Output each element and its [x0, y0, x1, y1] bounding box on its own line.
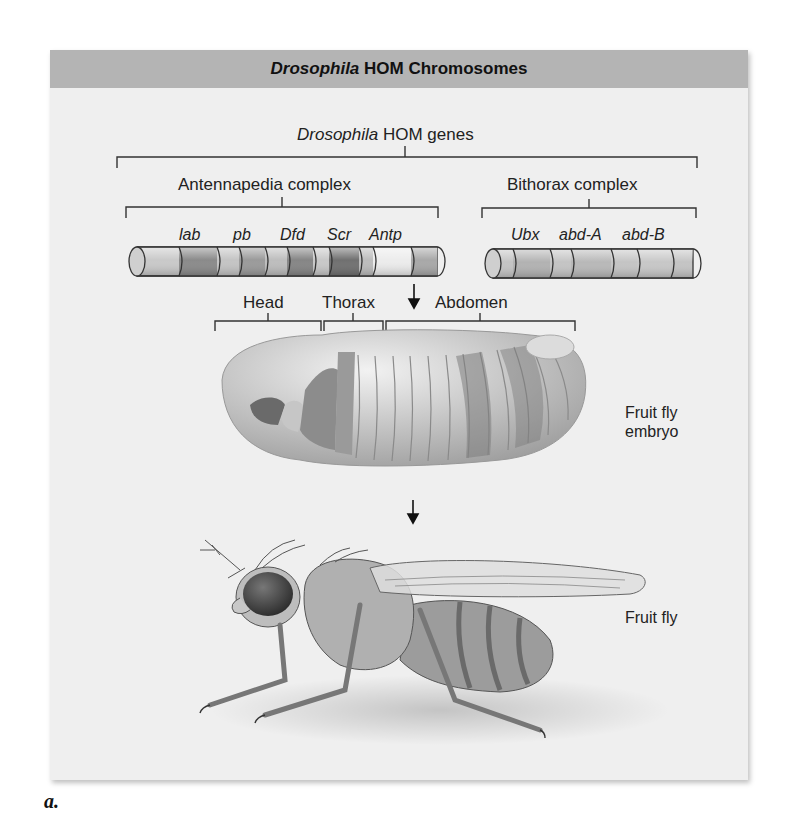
fruit-fly-illustration [200, 540, 670, 745]
gene-abd-b: abd-B [622, 226, 665, 244]
arrow-down-icon-2 [408, 500, 418, 523]
adult-fly-label: Fruit fly [625, 609, 677, 627]
embryo-label-line2: embryo [625, 423, 678, 441]
region-abdomen: Abdomen [435, 293, 508, 313]
bithorax-bracket [482, 199, 696, 218]
gene-antp: Antp [369, 226, 402, 244]
embryo-illustration [222, 330, 586, 466]
bithorax-complex-label: Bithorax complex [507, 175, 637, 195]
antennapedia-bracket [126, 197, 438, 218]
hom-genes-label: Drosophila HOM genes [297, 125, 474, 145]
hom-genes-bracket [117, 146, 697, 168]
antennapedia-complex-label: Antennapedia complex [178, 175, 351, 195]
hom-genes-italic: Drosophila [297, 125, 378, 144]
gene-ubx: Ubx [511, 226, 539, 244]
gene-abd-a: abd-A [559, 226, 602, 244]
hom-genes-rest: HOM genes [378, 125, 473, 144]
body-region-brackets [215, 313, 575, 331]
gene-dfd: Dfd [280, 226, 305, 244]
antennapedia-chromosome [129, 247, 445, 276]
embryo-label-line1: Fruit fly [625, 404, 677, 422]
region-thorax: Thorax [322, 293, 375, 313]
arrow-down-icon [409, 284, 419, 308]
figure-label: a. [44, 790, 59, 813]
gene-scr: Scr [327, 226, 351, 244]
bithorax-chromosome [485, 249, 701, 278]
gene-lab: lab [179, 226, 200, 244]
region-head: Head [243, 293, 284, 313]
gene-pb: pb [233, 226, 251, 244]
